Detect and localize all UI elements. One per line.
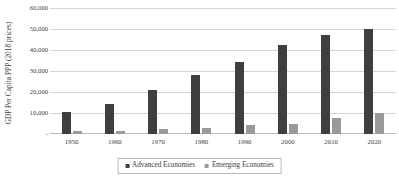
- y-axis-tick: 10,000: [14, 110, 48, 117]
- plot-area: [50, 8, 396, 134]
- x-axis-tick: 2000: [266, 136, 309, 148]
- bar: [289, 124, 298, 134]
- legend-swatch-icon: [125, 164, 129, 168]
- bar: [235, 62, 244, 134]
- y-axis-tick: 30,000: [14, 68, 48, 75]
- chart-legend: Advanced EconomiesEmerging Economies: [117, 158, 282, 174]
- bar: [73, 131, 82, 134]
- bar-group: [93, 8, 136, 134]
- bar-group: [353, 8, 396, 134]
- y-axis-tick: 60,000: [14, 5, 48, 12]
- bar: [105, 104, 114, 134]
- bar: [191, 75, 200, 134]
- bar: [62, 112, 71, 134]
- bar: [116, 131, 125, 134]
- x-axis-tick-labels: 19501960197019801990200020102020: [50, 136, 396, 148]
- y-axis-tick: 40,000: [14, 47, 48, 54]
- legend-item[interactable]: Emerging Economies: [205, 161, 274, 170]
- bar-group: [50, 8, 93, 134]
- y-axis-tick: 20,000: [14, 89, 48, 96]
- bar-group: [223, 8, 266, 134]
- bar: [364, 29, 373, 134]
- legend-swatch-icon: [205, 164, 209, 168]
- bar-groups: [50, 8, 396, 134]
- bar: [375, 113, 384, 134]
- bar-group: [180, 8, 223, 134]
- x-axis-tick: 1960: [93, 136, 136, 148]
- legend-item[interactable]: Advanced Economies: [125, 161, 195, 170]
- y-axis-tick-labels: -10,00020,00030,00040,00050,00060,000: [14, 8, 48, 134]
- x-axis-tick: 2010: [310, 136, 353, 148]
- bar: [332, 118, 341, 134]
- bar: [148, 90, 157, 134]
- y-axis-tick: 50,000: [14, 26, 48, 33]
- bar: [159, 129, 168, 134]
- legend-label: Advanced Economies: [132, 161, 195, 170]
- x-axis-tick: 2020: [353, 136, 396, 148]
- x-axis-tick: 1950: [50, 136, 93, 148]
- bar-group: [137, 8, 180, 134]
- bar: [321, 35, 330, 134]
- bar-group: [266, 8, 309, 134]
- bar-group: [310, 8, 353, 134]
- x-axis-tick: 1970: [137, 136, 180, 148]
- bar: [246, 125, 255, 134]
- x-axis-tick: 1980: [180, 136, 223, 148]
- bar-chart: GDP Per Capita PPP (2018 prices) -10,000…: [0, 0, 399, 185]
- x-axis-tick: 1990: [223, 136, 266, 148]
- bar: [202, 128, 211, 134]
- y-axis-tick: -: [14, 131, 48, 138]
- bar: [278, 45, 287, 134]
- legend-label: Emerging Economies: [212, 161, 274, 170]
